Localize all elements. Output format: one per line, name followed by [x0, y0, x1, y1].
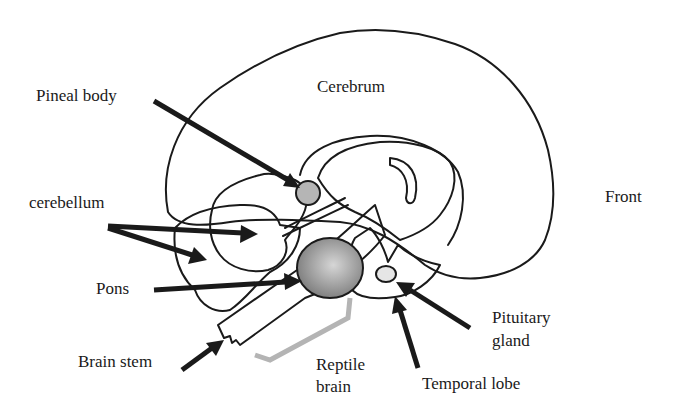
- label-reptile-brain-line2: brain: [316, 377, 351, 396]
- brain-diagram: Cerebrum Pineal body cerebellum Front Po…: [0, 0, 678, 417]
- inner-limbic: [318, 142, 455, 240]
- corpus-callosum-outer: [300, 136, 463, 245]
- arrow-temporal-lobe: [392, 296, 418, 368]
- label-cerebrum: Cerebrum: [317, 77, 385, 96]
- arrow-brain-stem: [182, 340, 224, 370]
- label-pons: Pons: [96, 279, 129, 298]
- label-pineal-body: Pineal body: [36, 86, 117, 105]
- label-reptile-brain-line1: Reptile: [316, 355, 365, 374]
- reptile-brain-bracket: [255, 298, 350, 360]
- arrow-pituitary-gland: [396, 282, 470, 328]
- arrow-cerebellum-outer: [108, 228, 207, 264]
- label-pituitary-gland-line2: gland: [492, 331, 530, 350]
- pons: [297, 238, 363, 298]
- label-temporal-lobe: Temporal lobe: [422, 374, 520, 393]
- label-pituitary-gland-line1: Pituitary: [492, 308, 551, 327]
- tract-lines: [283, 198, 348, 236]
- arrow-pons: [154, 273, 302, 290]
- label-brain-stem: Brain stem: [78, 352, 152, 371]
- label-cerebellum: cerebellum: [29, 193, 105, 212]
- fornix-curve: [390, 158, 416, 203]
- pineal-body: [296, 181, 320, 205]
- label-front: Front: [605, 187, 642, 206]
- arrow-pineal-body: [154, 101, 300, 188]
- pituitary-gland: [376, 266, 396, 282]
- cerebrum-outline: [166, 30, 553, 278]
